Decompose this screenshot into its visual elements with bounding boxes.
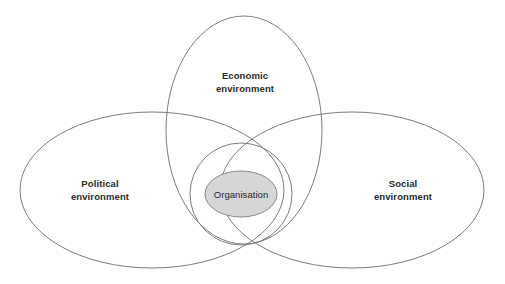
venn-diagram: Political environment Economic environme… <box>0 0 505 284</box>
organisation-ellipse <box>205 171 277 217</box>
venn-diagram-shapes <box>0 0 505 284</box>
